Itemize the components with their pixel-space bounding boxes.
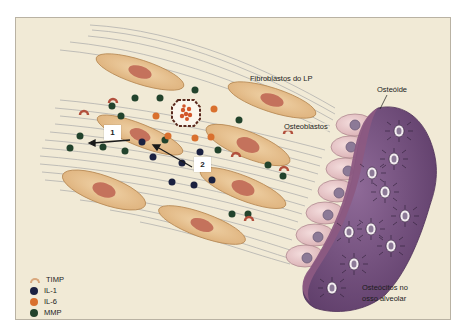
mmp-dot-icon	[30, 309, 38, 317]
fibroblast-cell	[58, 162, 150, 218]
timp-arc-icon	[30, 278, 40, 283]
legend-item-il1: IL-1	[30, 285, 64, 296]
osteocytes-label-line2: osso alveolar	[362, 295, 406, 303]
legend-label: TIMP	[46, 275, 64, 284]
osteoid-label: Osteóide	[377, 86, 407, 94]
il1-dot-icon	[30, 287, 38, 295]
fibroblasts-label: Fibroblastos do LP	[250, 75, 313, 83]
osteoblasts-label: Osteoblastos	[284, 123, 328, 131]
osteocytes-label-line1: Osteócitos no	[362, 284, 408, 292]
legend-label: MMP	[44, 308, 62, 317]
blood-vessel	[172, 100, 200, 126]
il6-dot-icon	[30, 298, 38, 306]
legend-item-timp: TIMP	[30, 274, 64, 285]
fibroblast-cell	[93, 46, 188, 97]
legend-label: IL-1	[44, 286, 57, 295]
legend-item-mmp: MMP	[30, 307, 64, 318]
legend-label: IL-6	[44, 297, 57, 306]
marker-2: 2	[194, 157, 211, 172]
fibroblast-cell	[155, 198, 250, 252]
legend: TIMP IL-1 IL-6 MMP	[30, 274, 64, 318]
marker-1: 1	[104, 125, 121, 140]
legend-item-il6: IL-6	[30, 296, 64, 307]
